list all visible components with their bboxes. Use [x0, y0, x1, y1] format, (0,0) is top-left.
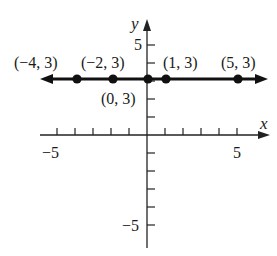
label-0-3: (0, 3)	[101, 90, 136, 108]
x-tick-label-neg5: −5	[42, 144, 59, 161]
label-neg4-3: (−4, 3)	[14, 54, 58, 72]
point-neg4-3	[72, 74, 81, 83]
coordinate-plane: x −5 5 y 5 −5	[0, 0, 277, 256]
line-left-arrow-icon	[40, 74, 53, 84]
x-axis-label: x	[259, 114, 268, 133]
y-axis-arrow-icon	[143, 19, 151, 31]
line-right-arrow-icon	[255, 74, 268, 84]
y-tick-label-5: 5	[134, 36, 142, 53]
point-neg2-3	[108, 74, 117, 83]
point-5-3	[233, 74, 242, 83]
x-tick-label-5: 5	[233, 144, 241, 161]
label-neg2-3: (−2, 3)	[81, 54, 125, 72]
point-1-3	[161, 74, 170, 83]
label-1-3: (1, 3)	[163, 54, 198, 72]
x-axis: x −5 5	[40, 114, 270, 161]
y-axis-label: y	[129, 14, 139, 33]
label-5-3: (5, 3)	[221, 54, 256, 72]
y-tick-label-neg5: −5	[122, 217, 139, 234]
y-axis: y 5 −5	[122, 14, 155, 248]
point-0-3	[143, 74, 152, 83]
